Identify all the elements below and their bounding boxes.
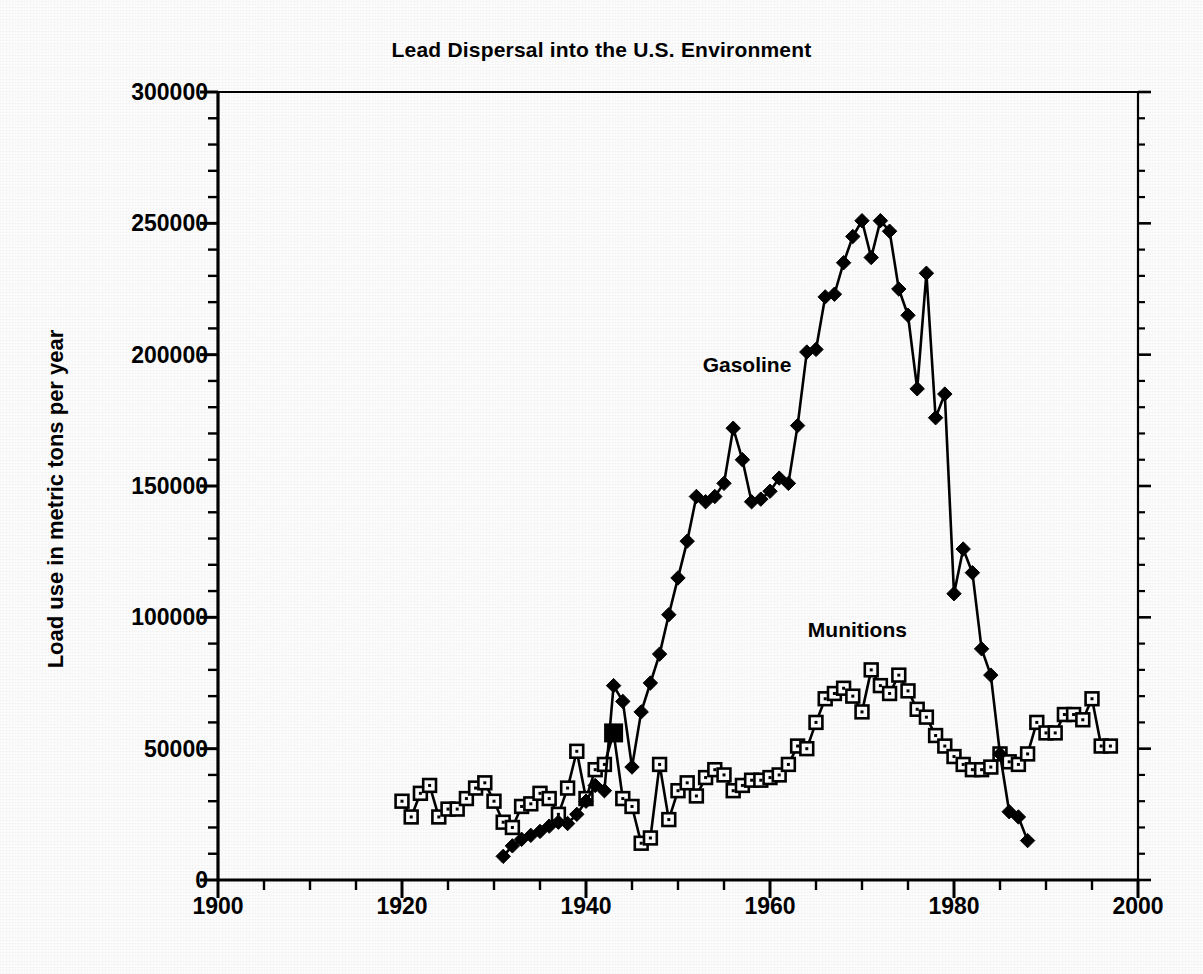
x-axis-tick-labels: 190019201940196019802000 (0, 0, 1203, 974)
series-annotation-gasoline: Gasoline (703, 353, 792, 377)
x-tick-label: 2000 (1112, 893, 1163, 920)
x-tick-label: 1920 (376, 893, 427, 920)
x-tick-label: 1960 (744, 893, 795, 920)
series-annotation-munitions: Munitions (808, 618, 907, 642)
chart-figure: Lead Dispersal into the U.S. Environment… (0, 0, 1203, 974)
x-tick-label: 1940 (560, 893, 611, 920)
x-tick-label: 1980 (928, 893, 979, 920)
x-tick-label: 1900 (192, 893, 243, 920)
